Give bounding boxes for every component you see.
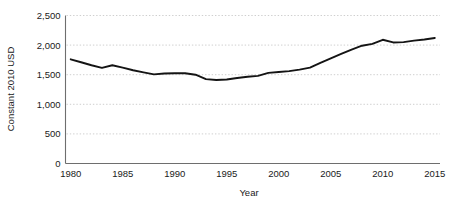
x-tick-label: 2000 (268, 168, 289, 179)
x-tick-labels-group: 19801985199019952000200520102015 (60, 168, 445, 179)
chart-figure: 05001,0001,5002,0002,500 198019851990199… (0, 0, 451, 203)
x-tick-label: 2010 (372, 168, 393, 179)
x-tick-label: 1980 (60, 168, 81, 179)
gridlines-group (67, 16, 441, 134)
y-tick-label: 2,000 (37, 40, 61, 51)
x-tick-label: 1995 (216, 168, 237, 179)
y-tick-label: 2,500 (37, 10, 61, 21)
data-series-line (71, 38, 435, 80)
x-tick-label: 1990 (164, 168, 185, 179)
x-tick-label: 2005 (320, 168, 341, 179)
y-tick-label: 1,500 (37, 69, 61, 80)
y-axis-title: Constant 2010 USD (5, 47, 16, 132)
axes-group (66, 16, 441, 164)
y-tick-label: 1,000 (37, 99, 61, 110)
y-tick-label: 500 (45, 128, 61, 139)
x-tick-label: 2015 (424, 168, 445, 179)
line-chart: 05001,0001,5002,0002,500 198019851990199… (0, 0, 451, 203)
x-tick-label: 1985 (112, 168, 133, 179)
y-tick-labels-group: 05001,0001,5002,0002,500 (37, 10, 61, 169)
x-axis-title: Year (239, 187, 258, 198)
